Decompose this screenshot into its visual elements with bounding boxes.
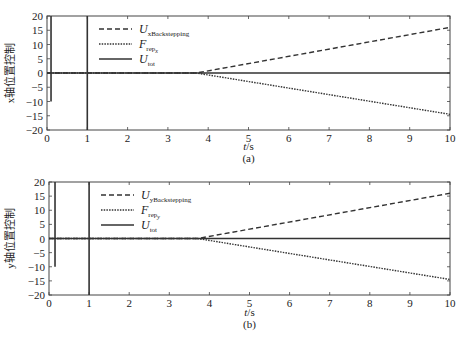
y-tick-label: 0 <box>40 233 46 245</box>
x-tick-label: 8 <box>367 297 373 309</box>
y-tick-label: 10 <box>32 39 44 51</box>
y-tick-label: 5 <box>38 53 44 65</box>
x-tick-label: 8 <box>367 132 373 144</box>
x-axis-label: t/s <box>243 140 253 152</box>
y-tick-label: −10 <box>28 261 46 273</box>
y-tick-label: 20 <box>32 10 44 22</box>
x-tick-label: 2 <box>126 297 132 309</box>
x-tick-label: 6 <box>287 297 293 309</box>
y-tick-label: −10 <box>26 96 44 108</box>
series-line-solid <box>49 182 450 295</box>
x-tick-label: 9 <box>407 297 413 309</box>
y-axis-label: y轴位置控制 <box>3 208 16 269</box>
y-axis-label: x轴位置控制 <box>3 43 16 104</box>
x-tick-label: 3 <box>167 297 173 309</box>
legend-item-backstepping: UxBackstepping <box>139 22 190 38</box>
x-tick-label: 7 <box>326 132 332 144</box>
y-tick-label: −5 <box>31 81 43 93</box>
x-tick-label: 4 <box>207 297 213 309</box>
y-tick-label: 10 <box>34 204 46 216</box>
legend-item-backstepping: UyBackstepping <box>141 188 192 204</box>
series-line-solid <box>47 16 450 130</box>
x-tick-label: 2 <box>125 132 131 144</box>
x-tick-label: 6 <box>286 132 292 144</box>
panel-caption: (b) <box>243 318 256 331</box>
series-line-dotted <box>47 73 450 114</box>
y-tick-label: 5 <box>40 218 46 230</box>
chart-panel-a: 01234567891020151050−5−10−15−20UxBackste… <box>3 10 456 165</box>
x-tick-label: 4 <box>205 132 211 144</box>
y-tick-label: −20 <box>26 124 44 136</box>
y-tick-label: −20 <box>28 289 46 301</box>
x-tick-label: 9 <box>407 132 413 144</box>
y-tick-label: −15 <box>26 110 44 122</box>
y-tick-label: −15 <box>28 275 46 287</box>
chart-figure: 01234567891020151050−5−10−15−20UxBackste… <box>0 0 463 338</box>
legend-item-total: Utot <box>141 218 157 234</box>
x-tick-label: 1 <box>86 297 92 309</box>
y-tick-label: −5 <box>33 247 45 259</box>
x-axis-label: t/s <box>244 306 254 318</box>
x-tick-label: 10 <box>445 297 457 309</box>
x-tick-label: 1 <box>85 132 91 144</box>
legend-item-total: Utot <box>139 52 155 68</box>
panel-caption: (a) <box>242 152 255 165</box>
x-tick-label: 0 <box>44 132 50 144</box>
x-tick-label: 10 <box>445 132 457 144</box>
y-tick-label: 15 <box>34 190 46 202</box>
x-tick-label: 7 <box>327 297 333 309</box>
chart-panel-b: 01234567891020151050−5−10−15−20UyBackste… <box>3 176 456 331</box>
y-tick-label: 0 <box>38 67 44 79</box>
y-tick-label: 20 <box>34 176 46 188</box>
x-tick-label: 0 <box>46 297 52 309</box>
y-tick-label: 15 <box>32 24 44 36</box>
x-tick-label: 3 <box>165 132 171 144</box>
series-line-dashed <box>47 27 450 73</box>
series-line-dashed <box>49 193 450 238</box>
series-line-dotted <box>49 239 450 280</box>
